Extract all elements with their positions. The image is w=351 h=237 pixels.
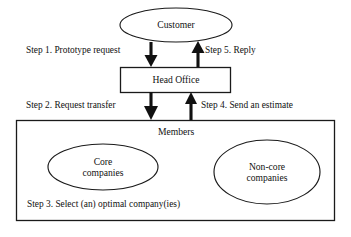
step4-arrow: [185, 92, 197, 120]
customer-label: Customer: [146, 19, 206, 30]
step1-label: Step 1. Prototype request: [26, 45, 120, 56]
step5-label: Step 5. Reply: [205, 45, 256, 56]
step1-arrow: [145, 42, 158, 67]
core-companies-label-line2: companies: [73, 167, 133, 178]
step4-label: Step 4. Send an estimate: [201, 100, 293, 111]
members-label: Members: [146, 126, 206, 137]
step2-label: Step 2. Request transfer: [26, 100, 116, 111]
diagram-canvas: Customer Head Office Members Core compan…: [0, 0, 351, 237]
head-office-label: Head Office: [145, 74, 207, 85]
step2-arrow: [144, 92, 158, 120]
step5-arrow: [192, 41, 205, 67]
non-core-companies-label-line2: companies: [235, 172, 299, 183]
core-companies-label-line1: Core: [73, 156, 133, 167]
non-core-companies-label-line1: Non-core: [235, 161, 299, 172]
step3-label: Step 3. Select (an) optimal company(ies): [27, 199, 180, 210]
